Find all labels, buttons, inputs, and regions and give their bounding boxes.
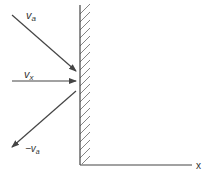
x-axis-label: x xyxy=(196,160,201,171)
neg-va-arrow xyxy=(12,91,76,147)
neg-va-label: −va xyxy=(25,143,40,155)
va-arrow xyxy=(12,15,76,71)
va-label: va xyxy=(26,9,37,23)
wall-hatching xyxy=(80,4,90,164)
velocity-wall-diagram: va vx −va x xyxy=(0,0,214,178)
diagram: va vx −va x xyxy=(0,0,214,178)
vx-label: vx xyxy=(24,68,35,82)
